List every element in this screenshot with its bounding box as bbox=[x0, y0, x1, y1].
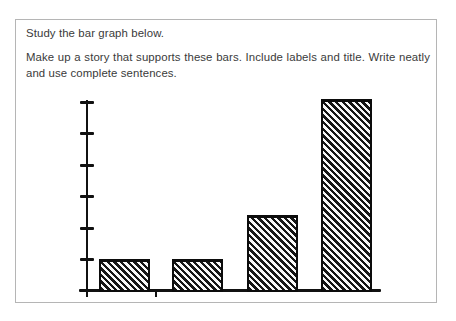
y-axis-tick bbox=[80, 227, 94, 230]
y-axis-tick bbox=[80, 195, 94, 198]
bar-4 bbox=[321, 99, 372, 292]
bar-chart bbox=[16, 20, 436, 302]
x-axis-tick bbox=[155, 289, 157, 297]
y-axis-tick bbox=[80, 132, 94, 135]
worksheet-panel: Study the bar graph below. Make up a sto… bbox=[15, 19, 437, 303]
y-axis-tick bbox=[80, 164, 94, 167]
bar-1 bbox=[99, 259, 150, 292]
bar-2 bbox=[172, 259, 223, 292]
bar-3 bbox=[247, 215, 298, 292]
y-axis-line bbox=[86, 100, 88, 297]
y-axis-tick bbox=[80, 258, 94, 261]
y-axis-tick bbox=[80, 101, 94, 104]
